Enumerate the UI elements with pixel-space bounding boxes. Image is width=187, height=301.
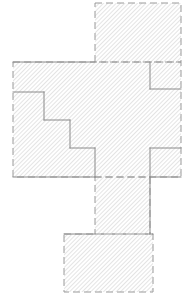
main-body-rectangle-fill [13, 62, 181, 177]
upper-rectangle-fill [95, 3, 181, 62]
diagram-svg [0, 0, 187, 301]
diagram-canvas [0, 0, 187, 301]
bottom-rectangle-fill [64, 234, 153, 292]
lower-vertical-strip-fill [95, 177, 150, 234]
